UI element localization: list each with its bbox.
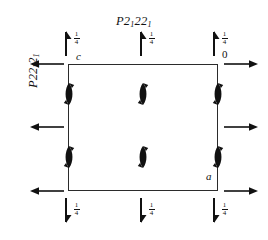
top-right-arrow [224,58,258,70]
fraction-numerator: 1 [72,202,81,209]
arrow-right-icon [224,121,258,133]
screw-axis-center-upper [135,82,151,106]
fraction-numerator: 1 [147,31,156,38]
title-sub2: 1 [147,20,151,29]
top-right-fraction: 1 4 [220,31,229,45]
bottom-left-fraction: 1 4 [72,202,81,216]
space-group-diagram: P21221 P22121 c 0 a 1 4 1 4 [0,0,268,240]
arrow-left-icon [30,121,64,133]
fraction-denominator: 4 [72,39,81,46]
axis-label-a: a [206,171,212,182]
fraction-numerator: 1 [147,202,156,209]
screw-axis-lens-icon [135,82,151,106]
fraction-denominator: 4 [220,39,229,46]
side-title-sub2: 1 [32,54,41,58]
side-title-wrap: P22121 [26,88,60,103]
screw-axis-right-lower [210,145,226,169]
screw-axis-left-lower [61,145,77,169]
fraction-denominator: 4 [220,210,229,217]
screw-axis-center-lower [135,145,151,169]
screw-axis-right-upper [210,82,226,106]
fraction-numerator: 1 [220,31,229,38]
bottom-left-arrow [30,185,64,197]
side-title-letter: P [26,80,40,88]
screw-axis-lens-icon [210,145,226,169]
top-left-fraction: 1 4 [72,31,81,45]
top-left-arrow [30,58,64,70]
bottom-right-arrow [224,185,258,197]
side-title-p1: 2 [26,74,40,80]
screw-axis-lens-icon [210,82,226,106]
page-title: P21221 [116,14,152,29]
fraction-denominator: 4 [147,210,156,217]
fraction-numerator: 1 [220,202,229,209]
arrow-left-icon [30,185,64,197]
screw-axis-lens-icon [61,145,77,169]
fraction-denominator: 4 [72,210,81,217]
bottom-right-fraction: 1 4 [220,202,229,216]
screw-axis-left-upper [61,82,77,106]
screw-axis-lens-icon [135,145,151,169]
fraction-denominator: 4 [147,39,156,46]
arrow-right-icon [224,185,258,197]
middle-right-arrow [224,121,258,133]
title-letter: P [116,14,124,28]
middle-left-arrow [30,121,64,133]
bottom-center-fraction: 1 4 [147,202,156,216]
fraction-numerator: 1 [72,31,81,38]
arrow-right-icon [224,58,258,70]
arrow-left-icon [30,58,64,70]
top-center-fraction: 1 4 [147,31,156,45]
screw-axis-lens-icon [61,82,77,106]
